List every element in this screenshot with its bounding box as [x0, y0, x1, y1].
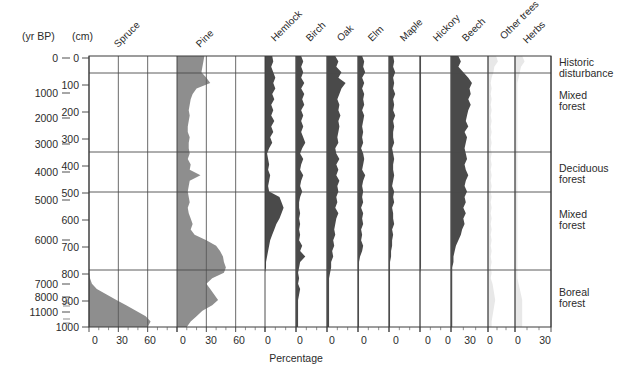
- pollen-curve-other-trees: [488, 56, 498, 327]
- depth-tick-label: 300: [61, 133, 79, 145]
- age-tick-label: 1000: [35, 87, 59, 99]
- taxon-label-hickory: Hickory: [431, 12, 462, 43]
- plot-frame-group: [89, 56, 551, 327]
- taxon-label-birch: Birch: [304, 20, 328, 44]
- plot-frame: [89, 56, 551, 327]
- x-tick-label: 0: [92, 334, 98, 346]
- depth-tick-label: 800: [61, 268, 79, 280]
- pollen-curve-spruce: [89, 56, 151, 327]
- pollen-curve-hemlock: [265, 56, 284, 327]
- pollen-curve-pine: [177, 56, 226, 327]
- x-tick-label: 0: [361, 334, 367, 346]
- pollen-curve-herbs: [515, 56, 525, 327]
- taxon-labels-group: SprucePineHemlockBirchOakElmMapleHickory…: [112, 0, 548, 49]
- zone-labels-group: HistoricdisturbanceMixedforestDeciduousf…: [559, 56, 613, 309]
- age-tick-label: 4000: [35, 166, 59, 178]
- x-tick-label: 0: [329, 334, 335, 346]
- pollen-curve-beech: [451, 56, 472, 327]
- depth-tick-label: 600: [61, 214, 79, 226]
- age-tick-label: 6000: [35, 234, 59, 246]
- depth-tick-label: 400: [61, 160, 79, 172]
- zone-label-line2: disturbance: [559, 67, 613, 79]
- pollen-diagram-figure: (yr BP) (cm) 010002000300040005000600070…: [0, 0, 627, 383]
- x-tick-label: 30: [205, 334, 217, 346]
- x-tick-label: 30: [464, 334, 476, 346]
- x-axis-ticks-group: [89, 327, 551, 332]
- depth-tick-label: 500: [61, 187, 79, 199]
- depth-tick-label: 700: [61, 241, 79, 253]
- depth-tick-label: 100: [61, 79, 79, 91]
- pollen-curve-oak: [327, 56, 346, 327]
- age-tick-label: 8000: [35, 291, 59, 303]
- age-tick-label: 11000: [30, 306, 59, 318]
- x-tick-label: 30: [116, 334, 128, 346]
- x-tick-label: 30: [539, 334, 551, 346]
- depth-tick-label: 1000: [56, 321, 80, 333]
- pollen-curve-elm: [358, 56, 365, 327]
- x-tick-label: 0: [265, 334, 271, 346]
- pollen-curve-birch: [296, 56, 305, 327]
- depth-axis-ticks-group: 01002003004005006007008009001000: [56, 52, 89, 333]
- x-axis-tick-labels-group: 03060030600000000300030: [92, 334, 551, 346]
- x-tick-label: 0: [515, 334, 521, 346]
- x-tick-label: 0: [425, 334, 431, 346]
- age-axis-unit-label: (yr BP): [22, 30, 55, 42]
- taxon-label-oak: Oak: [335, 22, 356, 43]
- zone-label-line2: forest: [559, 297, 585, 309]
- zone-boundary-lines-group: [89, 73, 551, 270]
- pollen-diagram-svg: (yr BP) (cm) 010002000300040005000600070…: [0, 0, 627, 383]
- depth-tick-label: 900: [61, 295, 79, 307]
- age-tick-label: 2000: [35, 112, 59, 124]
- pollen-curve-maple: [389, 56, 395, 327]
- x-axis-title: Percentage: [269, 352, 323, 364]
- x-tick-label: 60: [233, 334, 245, 346]
- zone-label-line2: forest: [559, 219, 585, 231]
- depth-axis-unit-label: (cm): [72, 30, 93, 42]
- x-tick-label: 0: [180, 334, 186, 346]
- x-tick-label: 0: [393, 334, 399, 346]
- age-tick-label: 5000: [35, 194, 59, 206]
- taxon-label-hemlock: Hemlock: [269, 7, 305, 43]
- age-tick-label: 7000: [35, 278, 59, 290]
- age-tick-label: 0: [52, 52, 58, 64]
- x-tick-label: 0: [487, 334, 493, 346]
- x-tick-label: 0: [297, 334, 303, 346]
- taxon-label-herbs: Herbs: [521, 19, 548, 46]
- taxon-label-spruce: Spruce: [112, 19, 142, 49]
- x-tick-label: 60: [144, 334, 156, 346]
- taxon-label-beech: Beech: [460, 16, 488, 44]
- pollen-curves-group: [89, 56, 525, 327]
- taxon-label-pine: Pine: [194, 27, 216, 49]
- depth-tick-label: 0: [73, 52, 79, 64]
- x-tick-label: 0: [445, 334, 451, 346]
- depth-tick-label: 200: [61, 106, 79, 118]
- taxon-label-elm: Elm: [366, 23, 386, 43]
- zone-label-line2: forest: [559, 100, 585, 112]
- taxon-label-maple: Maple: [398, 16, 425, 43]
- age-tick-label: 3000: [35, 138, 59, 150]
- zone-label-line2: forest: [559, 173, 585, 185]
